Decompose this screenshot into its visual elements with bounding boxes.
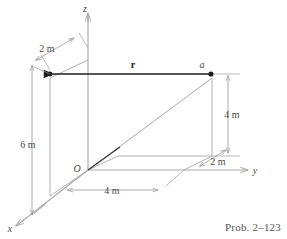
- axis-label-z: z: [82, 3, 87, 14]
- dim-label-6m-left: 6 m: [20, 139, 36, 150]
- axis-x: [16, 170, 88, 226]
- diagram-canvas: z y x O a r 2 m 6 m 4 m 2 m 4 m: [0, 0, 287, 239]
- dim-label-2m-right: 2 m: [210, 156, 226, 167]
- figure-caption: Prob. 2–123: [225, 221, 281, 233]
- dim-4m-bottom: [68, 170, 184, 190]
- axis-label-x: x: [7, 223, 13, 234]
- dim-label-2m-top: 2 m: [39, 43, 55, 54]
- vector-r: [48, 71, 214, 76]
- point-label-a: a: [200, 59, 205, 70]
- dim-label-4m-bottom: 4 m: [104, 185, 120, 196]
- dim-label-4m-right: 4 m: [224, 109, 240, 120]
- point-label-origin: O: [73, 163, 80, 174]
- axis-label-y: y: [252, 165, 258, 176]
- projection-segment: [88, 147, 120, 170]
- figure-root: z y x O a r 2 m 6 m 4 m 2 m 4 m Prob. 2–…: [0, 0, 287, 239]
- vector-label-r: r: [131, 59, 136, 70]
- construction-lines: [50, 60, 212, 196]
